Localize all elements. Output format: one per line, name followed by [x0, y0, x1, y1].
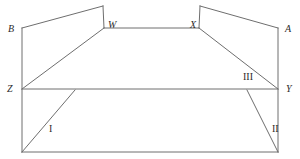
figure-line-art: [0, 0, 300, 159]
edge-top-right-peak-to-A: [200, 6, 278, 28]
edge-Z-to-W-diagonal: [22, 28, 104, 89]
vertex-label-y: Y: [286, 84, 292, 94]
vertex-label-w: W: [108, 20, 116, 30]
edge-B-to-top-left-peak: [22, 6, 103, 28]
edge-region-II-diagonal: [247, 90, 278, 152]
edges-group: [22, 6, 278, 152]
vertex-label-x: X: [190, 20, 196, 30]
edge-top-left-peak-to-W: [103, 6, 104, 28]
vertex-label-b: B: [8, 24, 14, 34]
figure-canvas: BWXAZYIIIIII: [0, 0, 300, 159]
vertex-label-z: Z: [7, 84, 13, 94]
region-label-i: I: [49, 124, 52, 134]
edge-region-I-diagonal: [22, 90, 75, 152]
vertex-label-a: A: [285, 24, 291, 34]
edge-X-to-Y-diagonal: [199, 28, 278, 89]
region-label-iii: III: [243, 72, 253, 82]
region-label-ii: II: [272, 124, 279, 134]
edge-X-to-top-right-peak: [199, 6, 200, 28]
